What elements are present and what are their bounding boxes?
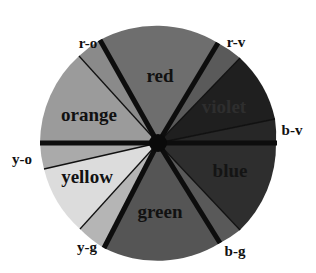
label-r-o: r-o — [79, 35, 98, 51]
label-violet: violet — [202, 96, 247, 117]
label-red: red — [146, 65, 174, 86]
center-hub — [149, 134, 167, 152]
color-wheel-diagram: red violet blue green yellow orange r-o … — [0, 0, 316, 273]
label-r-v: r-v — [227, 34, 246, 50]
label-b-g: b-g — [225, 243, 246, 259]
label-yellow: yellow — [61, 166, 113, 187]
label-green: green — [137, 201, 182, 222]
label-y-g: y-g — [77, 239, 97, 255]
label-blue: blue — [213, 160, 248, 181]
label-orange: orange — [61, 104, 117, 125]
label-b-v: b-v — [282, 122, 303, 138]
label-y-o: y-o — [12, 151, 32, 167]
